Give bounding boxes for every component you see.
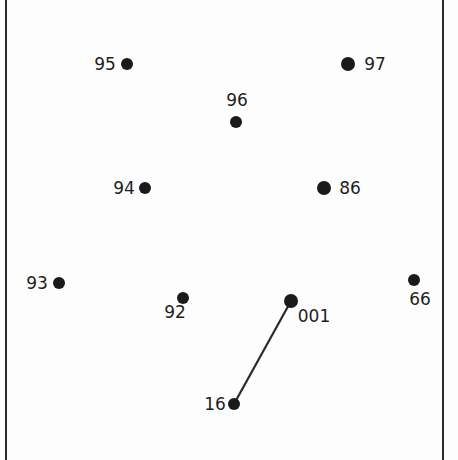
dot-96[interactable] bbox=[230, 116, 242, 128]
dot-98[interactable] bbox=[317, 181, 331, 195]
dot-label-100: 001 bbox=[298, 306, 330, 326]
dot-to-dot-canvas[interactable]: 169293949596978666001 bbox=[0, 0, 458, 460]
dot-label-96: 96 bbox=[226, 90, 248, 110]
dot-100[interactable] bbox=[284, 294, 298, 308]
dot-label-93: 93 bbox=[26, 273, 48, 293]
dot-label-94: 94 bbox=[113, 178, 135, 198]
dot-91[interactable] bbox=[228, 398, 240, 410]
dot-93[interactable] bbox=[53, 277, 65, 289]
dot-label-99: 66 bbox=[409, 289, 431, 309]
dot-97[interactable] bbox=[341, 57, 355, 71]
dot-95[interactable] bbox=[121, 58, 133, 70]
dot-label-98: 86 bbox=[339, 178, 361, 198]
dot-label-97: 97 bbox=[364, 54, 386, 74]
dot-label-92: 92 bbox=[164, 302, 186, 322]
dot-99[interactable] bbox=[408, 274, 420, 286]
dot-label-91: 16 bbox=[204, 394, 226, 414]
connecting-line-100-91 bbox=[234, 301, 291, 404]
dot-94[interactable] bbox=[139, 182, 151, 194]
dot-label-95: 95 bbox=[94, 54, 116, 74]
puzzle-page: 169293949596978666001 bbox=[0, 0, 458, 460]
